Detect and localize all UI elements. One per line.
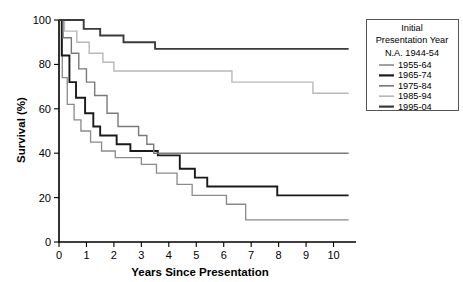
axis-tick-labels: 020406080100012345678910 (33, 14, 340, 261)
x-tick-label: 0 (56, 249, 62, 261)
y-tick-label: 100 (33, 14, 51, 26)
legend-label-1975-84: 1975-84 (398, 81, 432, 91)
y-tick-label: 60 (39, 103, 51, 115)
legend-label-1995-04: 1995-04 (398, 102, 432, 112)
x-tick-label: 8 (276, 249, 282, 261)
survival-curve-1985-94 (59, 20, 349, 93)
x-tick-label: 1 (83, 249, 89, 261)
chart-canvas: 020406080100012345678910 Survival (%) Ye… (0, 0, 463, 282)
y-tick-label: 80 (39, 58, 51, 70)
x-tick-label: 6 (221, 249, 227, 261)
legend-title-line1: Initial (401, 23, 422, 33)
y-tick-label: 20 (39, 192, 51, 204)
legend-entry-na: N.A. 1944-54 (385, 48, 439, 58)
y-tick-label: 40 (39, 147, 51, 159)
legend-label-1955-64: 1955-64 (398, 60, 432, 70)
legend-label-1985-94: 1985-94 (398, 91, 432, 101)
legend-title-line2: Presentation Year (376, 35, 449, 45)
x-tick-label: 10 (327, 249, 339, 261)
x-tick-label: 7 (248, 249, 254, 261)
survival-curve-1965-74 (59, 20, 349, 195)
survival-curve-1995-04 (59, 20, 349, 49)
legend: Initial Presentation Year N.A. 1944-54 1… (367, 20, 459, 112)
survival-chart-figure: 020406080100012345678910 Survival (%) Ye… (0, 0, 463, 282)
x-tick-label: 2 (111, 249, 117, 261)
plot-curves (59, 20, 349, 220)
x-axis-title: Years Since Presentation (131, 266, 268, 278)
y-axis-title: Survival (%) (15, 97, 27, 163)
x-tick-label: 5 (193, 249, 199, 261)
x-tick-label: 4 (166, 249, 172, 261)
survival-curve-1955-64 (59, 20, 349, 220)
survival-curve-1975-84 (59, 20, 349, 153)
legend-label-1965-74: 1965-74 (398, 70, 432, 80)
x-tick-label: 9 (303, 249, 309, 261)
x-tick-label: 3 (138, 249, 144, 261)
y-tick-label: 0 (45, 236, 51, 248)
